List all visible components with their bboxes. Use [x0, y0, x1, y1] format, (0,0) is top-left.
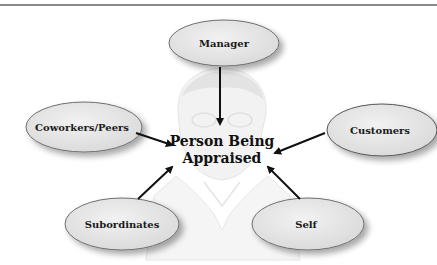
arrow-customers-to-center [275, 133, 325, 153]
self-label: Self [295, 219, 317, 230]
subordinates-label: Subordinates [85, 219, 160, 230]
center-person-being-appraised: Person Being Appraised [170, 133, 275, 167]
manager-label: Manager [199, 38, 249, 49]
coworkers-peers-label: Coworkers/Peers [35, 122, 129, 133]
center-label-line2: Appraised [170, 150, 275, 167]
arrow-coworkers-to-center [136, 133, 172, 145]
center-label-line1: Person Being [170, 133, 275, 150]
customers-label: Customers [350, 125, 410, 136]
